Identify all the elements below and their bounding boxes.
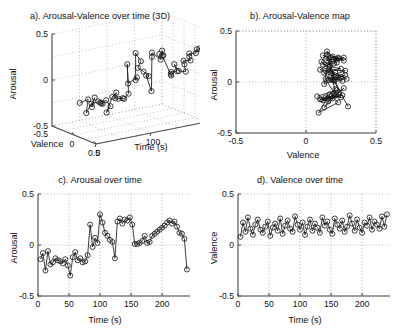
subplot-c-arousal-over-time: c). Arousal over time -0.500.50501001502… bbox=[0, 168, 200, 336]
ztick-a-2: 0.5 bbox=[36, 29, 48, 39]
subplot-c-svg: c). Arousal over time -0.500.50501001502… bbox=[0, 168, 200, 336]
subplot-c-yaxis-label: Arousal bbox=[9, 232, 19, 263]
subplot-b-title: b). Arousal-Valence map bbox=[250, 11, 350, 21]
subplot-a-zaxis-label: Arousal bbox=[8, 68, 18, 99]
xtick-c-4: 200 bbox=[155, 299, 170, 309]
ytick-b-2: 0.5 bbox=[220, 26, 232, 36]
figure-canvas: a). Arousal-Valence over time (3D) -0.50… bbox=[0, 0, 399, 336]
xtick-c-1: 50 bbox=[64, 299, 74, 309]
xtick-d-3: 150 bbox=[324, 299, 339, 309]
ytick-c-2: 0.5 bbox=[22, 189, 34, 199]
subplot-d-plot-area: -0.500.5050100150200 bbox=[219, 189, 390, 309]
xtick-a-start: -0.5 bbox=[33, 129, 48, 139]
subplot-b-yaxis-label: Arousal bbox=[209, 69, 219, 100]
ytick-c-0: -0.5 bbox=[19, 291, 34, 301]
xtick-c-0: 0 bbox=[36, 299, 41, 309]
xtick-a-0: 0 bbox=[70, 139, 75, 149]
subplot-a-yaxis-label: Time (s) bbox=[134, 142, 167, 152]
subplot-d-svg: d). Valence over time -0.500.50501001502… bbox=[200, 168, 399, 336]
subplot-a-svg: a). Arousal-Valence over time (3D) -0.50… bbox=[0, 0, 200, 168]
xtick-b-1: 0 bbox=[304, 136, 309, 146]
xtick-b-2: 0.5 bbox=[370, 136, 382, 146]
subplot-c-title: c). Arousal over time bbox=[58, 175, 142, 185]
subplot-b-plot-area: -0.500.5-0.500.5 bbox=[217, 26, 382, 146]
ytick-d-1: 0 bbox=[229, 240, 234, 250]
subplot-b-xaxis-label: Valence bbox=[287, 150, 320, 160]
ytick-c-1: 0 bbox=[29, 240, 34, 250]
subplot-d-valence-over-time: d). Valence over time -0.500.50501001502… bbox=[200, 168, 399, 336]
subplot-d-yaxis-label: Valence bbox=[209, 232, 219, 265]
xtick-c-3: 150 bbox=[124, 299, 139, 309]
xtick-d-4: 200 bbox=[355, 299, 370, 309]
ytick-b-1: 0 bbox=[227, 77, 232, 87]
subplot-b-svg: b). Arousal-Valence map -0.500.5-0.500.5… bbox=[200, 0, 399, 168]
ztick-a-1: 0 bbox=[43, 75, 48, 85]
xtick-d-0: 0 bbox=[236, 299, 241, 309]
subplot-a-arousal-valence-3d: a). Arousal-Valence over time (3D) -0.50… bbox=[0, 0, 200, 168]
xtick-d-1: 50 bbox=[264, 299, 274, 309]
xtick-d-2: 100 bbox=[293, 299, 308, 309]
subplot-a-plot-area: -0.500.5-0.500.50100200 bbox=[33, 12, 200, 158]
subplot-b-arousal-valence-map: b). Arousal-Valence map -0.500.5-0.500.5… bbox=[200, 0, 399, 168]
subplot-a-title: a). Arousal-Valence over time (3D) bbox=[30, 11, 170, 21]
xtick-b-0: -0.5 bbox=[229, 136, 244, 146]
series-markers-a bbox=[77, 45, 200, 115]
subplot-d-xaxis-label: Time (s) bbox=[288, 315, 321, 325]
ytick-d-0: -0.5 bbox=[219, 291, 234, 301]
subplot-c-xaxis-label: Time (s) bbox=[88, 315, 121, 325]
subplot-c-plot-area: -0.500.5050100150200 bbox=[19, 189, 190, 309]
ytick-a-0: 0 bbox=[96, 148, 101, 158]
ytick-d-2: 0.5 bbox=[222, 189, 234, 199]
xtick-c-2: 100 bbox=[93, 299, 108, 309]
subplot-a-xaxis-label: Valence bbox=[31, 139, 64, 149]
subplot-d-title: d). Valence over time bbox=[257, 175, 343, 185]
